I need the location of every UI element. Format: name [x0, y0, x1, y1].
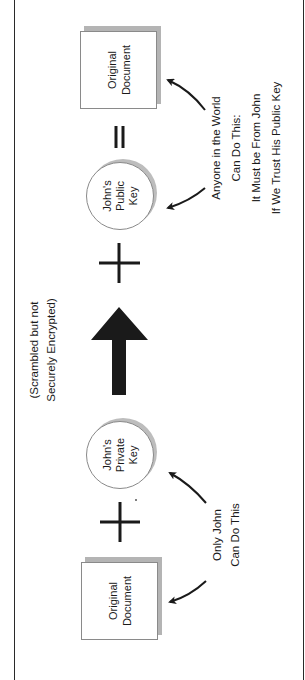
- plus-operator-icon: [100, 502, 140, 542]
- dot-artifact: [135, 499, 137, 501]
- digital-signature-diagram: Original Document John's Private Key Joh…: [0, 0, 305, 680]
- curved-arrow-icon: [168, 80, 205, 110]
- thick-arrow-icon: [91, 307, 148, 395]
- equals-operator-icon: [116, 126, 123, 148]
- curved-arrow-icon: [170, 473, 206, 503]
- diagram-graphics: [0, 0, 305, 680]
- plus-operator-icon: [99, 243, 140, 283]
- curved-arrow-icon: [170, 581, 206, 602]
- curved-arrow-icon: [168, 188, 205, 208]
